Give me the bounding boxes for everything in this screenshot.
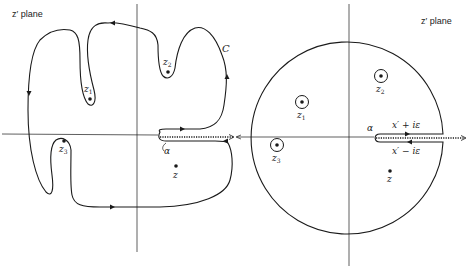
left-point-z [174, 164, 178, 168]
arrow-icon [407, 140, 412, 145]
right-panel [236, 4, 466, 266]
left-branch-cut [160, 135, 234, 140]
right-plane-label: z′ plane [421, 16, 452, 26]
lower-edge-label: x′ − iε [392, 146, 420, 156]
left-point-z1 [88, 97, 92, 101]
left-plane-label: z′ plane [12, 9, 43, 19]
left-horizontal-axis [2, 134, 158, 135]
arrow-icon [110, 205, 115, 210]
arrow-icon [110, 21, 115, 26]
right-alpha-label: α [367, 123, 373, 133]
left-contour-c [28, 23, 232, 207]
left-label-z3: z3 [59, 144, 68, 155]
right-label-z2: z2 [376, 84, 385, 95]
right-branch-cut [376, 136, 466, 141]
contour-diagram [0, 0, 470, 269]
right-label-z3: z3 [272, 153, 281, 164]
arrow-icon [405, 132, 410, 137]
left-label-z2: z2 [163, 57, 172, 68]
left-alpha-label: α [164, 146, 170, 156]
right-label-z1: z1 [297, 110, 306, 121]
right-label-z: z [387, 174, 392, 184]
right-point-z [388, 169, 392, 173]
arrow-icon [223, 139, 228, 144]
arrow-icon [225, 74, 230, 79]
upper-edge-label: x′ + iε [392, 120, 420, 130]
left-label-z1: z1 [84, 84, 93, 95]
contour-label: C [222, 43, 230, 54]
right-keyhole-contour [251, 42, 443, 234]
left-panel [2, 4, 234, 252]
left-point-z2 [166, 70, 170, 74]
left-label-z: z [173, 170, 178, 180]
arrow-icon [27, 91, 32, 96]
left-point-z3 [62, 139, 66, 143]
arrow-icon [180, 127, 185, 132]
